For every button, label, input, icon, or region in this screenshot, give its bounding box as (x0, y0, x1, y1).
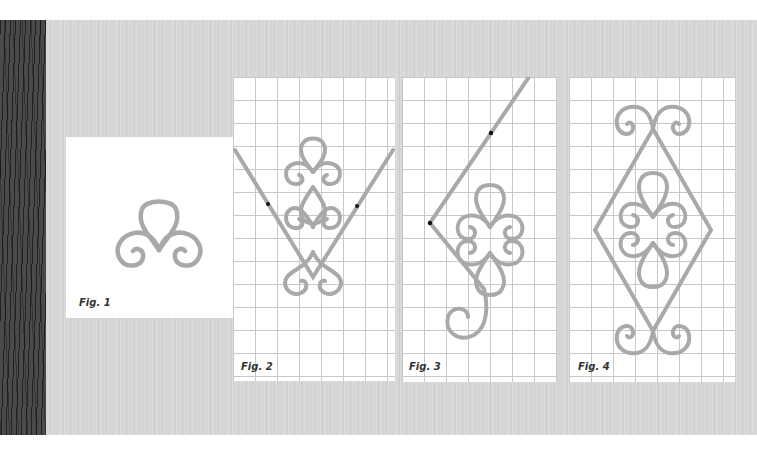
marker-point-upper (489, 131, 493, 135)
marker-point-left (266, 202, 270, 206)
figure-1-panel: Fig. 1 (66, 137, 252, 318)
v-bar-scroll-icon (233, 77, 395, 381)
diamond-frame-scroll-icon (569, 77, 735, 382)
dark-wood-strip (0, 20, 46, 435)
figure-3-panel: Fig. 3 (402, 77, 557, 382)
marker-point-right (355, 204, 359, 208)
figure-4-panel: Fig. 4 (569, 77, 735, 382)
figure-2-label: Fig. 2 (241, 361, 273, 372)
trefoil-scroll-icon (66, 137, 252, 318)
figure-4-label: Fig. 4 (578, 361, 610, 372)
marker-point-corner (428, 221, 432, 225)
figure-2-panel: Fig. 2 (233, 77, 395, 381)
figure-1-label: Fig. 1 (79, 297, 111, 308)
figure-3-label: Fig. 3 (409, 361, 441, 372)
angled-bar-scroll-icon (402, 77, 557, 382)
